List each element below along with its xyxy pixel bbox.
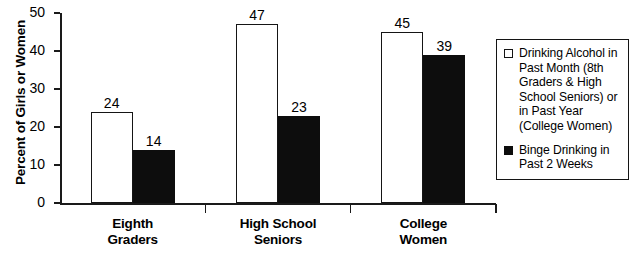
bar: 23: [278, 116, 320, 203]
y-axis-line: [60, 13, 62, 203]
legend-item: Drinking Alcohol inPast Month (8thGrader…: [504, 46, 623, 134]
category-label-line: Eighth: [60, 216, 205, 232]
y-tick-label: 10: [5, 156, 45, 172]
bar: 45: [381, 32, 423, 203]
y-tick-label: 50: [5, 4, 45, 20]
y-tick: 10: [54, 164, 60, 166]
category-label-line: High School: [205, 216, 350, 232]
y-tick-mark: [54, 50, 60, 52]
y-tick-label: 30: [5, 80, 45, 96]
y-tick-mark: [54, 88, 60, 90]
legend-item: Binge Drinking inPast 2 Weeks: [504, 143, 623, 172]
category-label-line: College: [351, 216, 496, 232]
x-axis-separator-tick: [495, 204, 497, 213]
category-label-line: Graders: [60, 232, 205, 248]
y-tick-label: 40: [5, 42, 45, 58]
category-label-line: Seniors: [205, 232, 350, 248]
y-tick-mark: [54, 202, 60, 204]
bar-value-label: 14: [146, 134, 162, 149]
x-axis-line: [60, 203, 496, 205]
x-axis-separator-tick: [350, 204, 352, 213]
bar-value-label: 24: [104, 96, 120, 111]
bar-value-label: 47: [249, 8, 265, 23]
y-tick-mark: [54, 12, 60, 14]
bar: 24: [91, 112, 133, 203]
y-tick: 50: [54, 12, 60, 14]
bar-chart: Percent of Girls or Women 01020304050 24…: [0, 0, 637, 257]
legend-item-label: Binge Drinking inPast 2 Weeks: [519, 143, 609, 172]
plot-area: 01020304050 241447234539 EighthGradersHi…: [60, 8, 496, 204]
bar-value-label: 45: [395, 16, 411, 31]
bar: 39: [423, 55, 465, 203]
y-tick-mark: [54, 126, 60, 128]
x-axis-category-label: High SchoolSeniors: [205, 216, 350, 248]
legend: Drinking Alcohol inPast Month (8thGrader…: [496, 39, 629, 180]
y-tick-label: 0: [5, 194, 45, 210]
y-tick-label: 20: [5, 118, 45, 134]
bar: 47: [236, 24, 278, 203]
bar-value-label: 39: [437, 39, 453, 54]
legend-swatch-dark: [504, 146, 513, 155]
x-axis-category-label: EighthGraders: [60, 216, 205, 248]
y-tick-mark: [54, 164, 60, 166]
legend-item-label: Drinking Alcohol inPast Month (8thGrader…: [519, 46, 617, 134]
legend-swatch-light: [504, 49, 513, 58]
x-axis-separator-tick: [205, 204, 207, 213]
x-axis-category-label: CollegeWomen: [351, 216, 496, 248]
y-tick: 0: [54, 202, 60, 204]
y-tick: 20: [54, 126, 60, 128]
bar-value-label: 23: [291, 100, 307, 115]
category-label-line: Women: [351, 232, 496, 248]
y-tick: 40: [54, 50, 60, 52]
y-axis-title: Percent of Girls or Women: [13, 3, 28, 203]
y-tick: 30: [54, 88, 60, 90]
bar: 14: [133, 150, 175, 203]
